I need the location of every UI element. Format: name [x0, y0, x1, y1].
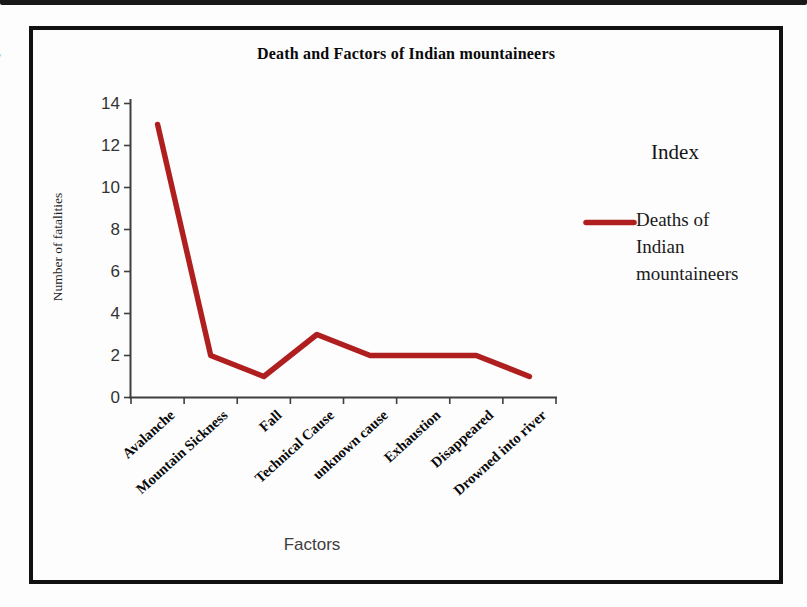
scan-top-edge-strip [0, 0, 807, 5]
y-tick-label: 12 [84, 136, 120, 156]
chart-border-frame [29, 26, 783, 584]
y-tick-label: 4 [84, 304, 120, 324]
y-tick-label: 2 [84, 346, 120, 366]
legend-entry-label: Deaths of Indian mountaineers [636, 206, 748, 287]
legend-title: Index [620, 140, 730, 165]
scan-edge-artifact: 2 [0, 50, 10, 70]
y-tick-label: 6 [84, 262, 120, 282]
chart-title: Death and Factors of Indian mountaineers [30, 45, 782, 63]
x-axis-title: Factors [232, 535, 392, 555]
y-tick-label: 0 [84, 388, 120, 408]
y-tick-label: 14 [84, 94, 120, 114]
scanned-page: { "chart_data": { "type": "line", "title… [0, 0, 807, 607]
y-axis-title: Number of fatalities [50, 193, 66, 302]
y-tick-label: 8 [84, 220, 120, 240]
y-tick-label: 10 [84, 178, 120, 198]
